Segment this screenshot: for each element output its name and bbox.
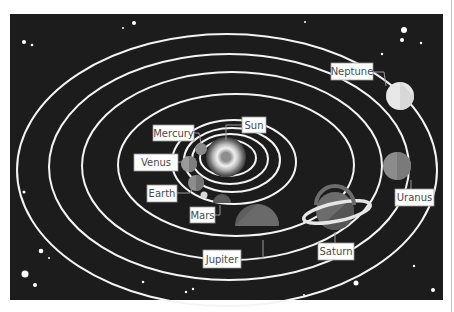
label-mercury: Mercury (153, 125, 194, 141)
label-uranus: Uranus (395, 189, 434, 206)
label-venus: Venus (134, 154, 178, 171)
svg-text:Uranus: Uranus (397, 192, 432, 203)
label-jupiter: Jupiter (203, 250, 241, 268)
solar-system-diagram: Sun Mercury Venus Earth Mars Jupiter Sat… (0, 0, 454, 312)
label-sun: Sun (242, 117, 266, 133)
svg-text:Jupiter: Jupiter (205, 254, 239, 265)
sun-core (221, 152, 231, 162)
svg-text:Mars: Mars (190, 210, 214, 221)
label-neptune: Neptune (331, 63, 374, 80)
svg-text:Neptune: Neptune (331, 66, 374, 77)
label-saturn: Saturn (318, 243, 354, 260)
svg-text:Saturn: Saturn (319, 246, 352, 257)
svg-text:Earth: Earth (149, 188, 176, 199)
svg-text:Mercury: Mercury (153, 128, 194, 139)
svg-text:Venus: Venus (141, 157, 171, 168)
planet-earth-moon (201, 192, 208, 199)
label-mars: Mars (190, 207, 215, 223)
planet-mercury (195, 143, 207, 155)
svg-text:Sun: Sun (244, 120, 263, 131)
label-earth: Earth (147, 185, 177, 202)
